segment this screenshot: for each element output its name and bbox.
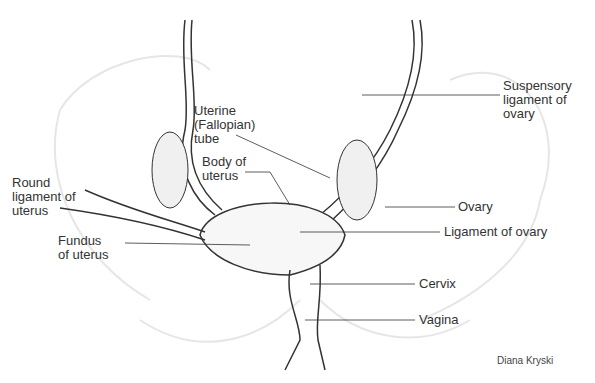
label-ligament-of-ovary: Ligament of ovary [444, 225, 547, 239]
label-line: (Fallopian) [194, 118, 255, 132]
label-line: Fundus [58, 234, 109, 248]
label-line: ovary [503, 107, 572, 121]
label-round-ligament: Round ligament of uterus [12, 176, 76, 218]
label-line: uterus [202, 169, 246, 183]
label-line: Suspensory [503, 79, 572, 93]
artist-credit: Diana Kryski [497, 355, 553, 366]
label-ovary: Ovary [458, 200, 493, 214]
label-line: tube [194, 132, 255, 146]
label-vagina: Vagina [419, 313, 459, 327]
label-line: Uterine [194, 104, 255, 118]
label-line: Round [12, 176, 76, 190]
label-body-of-uterus: Body of uterus [202, 155, 246, 183]
label-line: ligament of [503, 93, 572, 107]
label-line: uterus [12, 204, 76, 218]
label-fundus: Fundus of uterus [58, 234, 109, 262]
label-line: Body of [202, 155, 246, 169]
label-uterine-tube: Uterine (Fallopian) tube [194, 104, 255, 146]
label-line: ligament of [12, 190, 76, 204]
label-cervix: Cervix [419, 277, 456, 291]
label-line: of uterus [58, 248, 109, 262]
uterus-anatomy-illustration [0, 0, 595, 383]
label-suspensory-ligament: Suspensory ligament of ovary [503, 79, 572, 121]
